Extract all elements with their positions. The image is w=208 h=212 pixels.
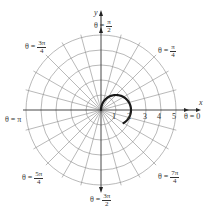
angle-label-pi: θ = π xyxy=(5,116,21,124)
angle-label-5pi-over-4: θ = 5π4 xyxy=(22,171,43,186)
angle-label-3pi-over-4: θ = 3π4 xyxy=(25,40,46,55)
grid-spoke xyxy=(46,110,101,165)
y-axis-arrow-icon xyxy=(99,10,103,16)
grid-spoke xyxy=(62,110,101,178)
radial-tick-1: 1 xyxy=(112,113,116,121)
angle-label-3pi-over-2: θ = 3π2 xyxy=(90,193,111,208)
grid-spoke xyxy=(101,42,140,110)
angle-label-zero: θ = 0 xyxy=(184,113,200,121)
radial-tick-3: 3 xyxy=(143,113,147,121)
axes xyxy=(23,10,201,193)
grid-spoke xyxy=(101,110,140,178)
angle-label-7pi-over-4: θ = 7π4 xyxy=(158,170,179,185)
grid-spoke xyxy=(101,71,169,110)
radial-tick-4: 4 xyxy=(157,113,161,121)
grid-spoke xyxy=(46,55,101,110)
grid-spoke xyxy=(33,71,101,110)
radial-tick-2: 2 xyxy=(127,113,131,121)
angle-label-pi-over-4: θ = π4 xyxy=(158,44,176,59)
radial-tick-5: 5 xyxy=(172,113,176,121)
x-axis-label: x xyxy=(199,99,203,107)
grid-spoke xyxy=(33,110,101,149)
grid-spoke xyxy=(62,42,101,110)
y-axis-label: y xyxy=(94,9,98,17)
angle-label-pi-over-2: θ = π2 xyxy=(94,19,112,34)
